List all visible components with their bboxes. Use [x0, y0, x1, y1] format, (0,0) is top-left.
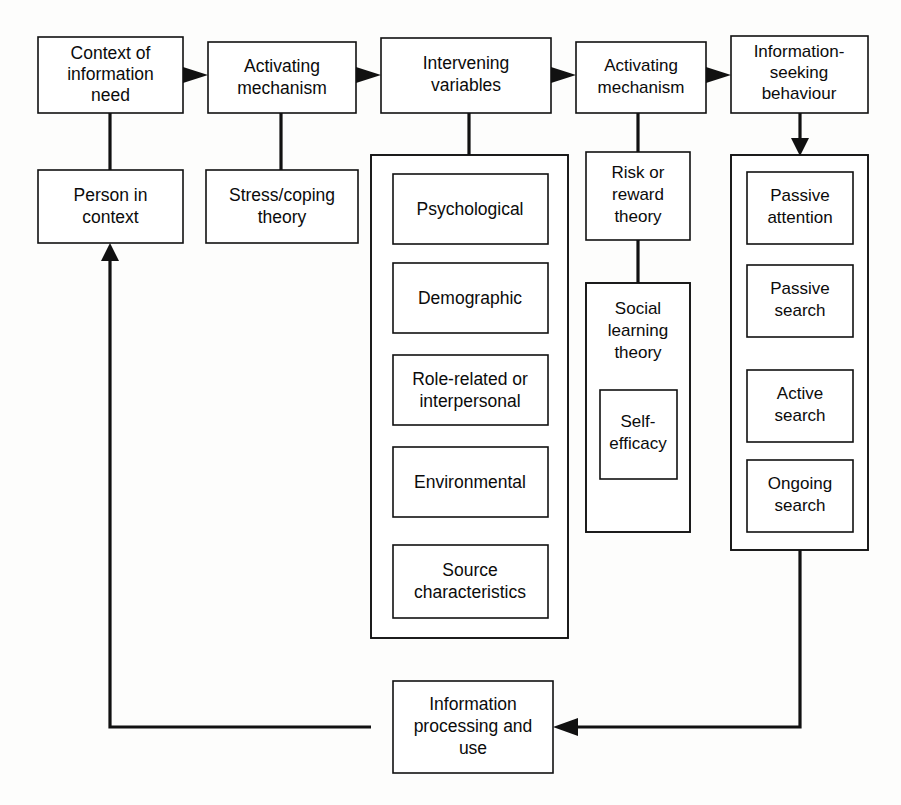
connector-seeking-to-processing	[575, 550, 800, 727]
box-label-activating1-line1: Activating	[244, 56, 320, 76]
box-label-psychological: Psychological	[417, 199, 524, 219]
arrowhead-activating2-to-seeking	[706, 67, 731, 83]
box-label-ongoing-search-line1: Ongoing	[768, 474, 832, 493]
arrowhead-seeking-to-container	[791, 138, 809, 156]
box-label-social-line2: learning	[608, 321, 669, 340]
connector-feedback-left	[101, 243, 371, 727]
box-label-self-efficacy-line2: efficacy	[609, 434, 667, 453]
box-label-risk-line3: theory	[614, 207, 662, 226]
box-label-demographic: Demographic	[418, 288, 522, 308]
box-label-ongoing-search-line2: search	[774, 496, 825, 515]
box-label-seeking-line2: seeking	[770, 63, 829, 82]
box-environmental[interactable]: Environmental	[393, 447, 548, 517]
box-label-passive-search-line1: Passive	[770, 279, 830, 298]
box-label-activating2-line1: Activating	[604, 56, 678, 75]
box-ongoing-search[interactable]: Ongoing search	[747, 460, 853, 532]
box-label-seeking-line1: Information-	[754, 42, 845, 61]
box-label-stress-line1: Stress/coping	[229, 185, 335, 205]
box-activating-mechanism-1[interactable]: Activating mechanism	[208, 42, 356, 113]
box-stress-coping-theory[interactable]: Stress/coping theory	[206, 170, 358, 243]
box-label-active-search-line2: search	[774, 406, 825, 425]
arrowhead-activating1-to-intervening	[356, 67, 381, 83]
box-label-active-search-line1: Active	[777, 384, 823, 403]
box-psychological[interactable]: Psychological	[393, 174, 548, 244]
box-label-activating2-line2: mechanism	[598, 78, 685, 97]
arrowhead-context-to-activating1	[183, 67, 208, 83]
arrowhead-into-processing	[553, 718, 578, 736]
box-label-intervening-line1: Intervening	[423, 53, 510, 73]
box-label-role-related-line2: interpersonal	[419, 391, 520, 411]
box-label-source-line1: Source	[442, 560, 497, 580]
box-person-in-context[interactable]: Person in context	[38, 170, 183, 243]
box-role-related-or-interpersonal[interactable]: Role-related or interpersonal	[393, 355, 548, 425]
box-label-risk-line2: reward	[612, 185, 664, 204]
box-passive-search[interactable]: Passive search	[747, 265, 853, 337]
box-context-of-information-need[interactable]: Context of information need	[38, 37, 183, 113]
box-demographic[interactable]: Demographic	[393, 263, 548, 333]
arrowhead-intervening-to-activating2	[551, 67, 576, 83]
box-label-processing-line2: processing and	[414, 716, 533, 736]
box-activating-mechanism-2[interactable]: Activating mechanism	[576, 42, 706, 113]
container-intervening-variables: Psychological Demographic Role-related o…	[371, 155, 568, 638]
box-label-context-line3: need	[91, 85, 130, 105]
box-risk-or-reward-theory[interactable]: Risk or reward theory	[586, 152, 690, 240]
box-label-intervening-line2: variables	[431, 75, 501, 95]
box-information-processing-and-use[interactable]: Information processing and use	[393, 681, 553, 773]
box-label-context-line2: information	[67, 64, 154, 84]
box-label-processing-line1: Information	[429, 694, 517, 714]
box-label-person-line1: Person in	[74, 185, 148, 205]
box-label-social-line1: Social	[615, 299, 661, 318]
box-information-seeking-behaviour[interactable]: Information- seeking behaviour	[731, 36, 868, 113]
box-passive-attention[interactable]: Passive attention	[747, 172, 853, 244]
container-social-learning-theory[interactable]: Social learning theory Self- efficacy	[586, 283, 690, 532]
box-intervening-variables[interactable]: Intervening variables	[381, 38, 551, 113]
box-label-self-efficacy-line1: Self-	[621, 412, 656, 431]
box-label-social-line3: theory	[614, 343, 662, 362]
box-label-risk-line1: Risk or	[612, 163, 665, 182]
flow-diagram-canvas: Context of information need Activating m…	[0, 0, 901, 805]
box-label-person-line2: context	[82, 207, 139, 227]
connector-feedback-right	[553, 550, 800, 736]
box-self-efficacy[interactable]: Self- efficacy	[600, 390, 677, 479]
box-active-search[interactable]: Active search	[747, 370, 853, 442]
box-label-environmental: Environmental	[414, 472, 526, 492]
container-information-seeking-behaviour: Passive attention Passive search Active …	[731, 155, 868, 550]
connector-processing-to-person	[110, 258, 371, 727]
box-label-passive-attention-line1: Passive	[770, 186, 830, 205]
arrowhead-into-person	[101, 243, 119, 261]
box-label-stress-line2: theory	[258, 207, 307, 227]
flow-diagram: Context of information need Activating m…	[0, 0, 901, 805]
box-label-passive-attention-line2: attention	[767, 208, 832, 227]
box-label-activating1-line2: mechanism	[237, 78, 326, 98]
box-label-source-line2: characteristics	[414, 582, 526, 602]
box-label-context-line1: Context of	[71, 43, 151, 63]
box-label-passive-search-line2: search	[774, 301, 825, 320]
box-label-role-related-line1: Role-related or	[412, 369, 528, 389]
box-label-processing-line3: use	[459, 738, 487, 758]
box-label-seeking-line3: behaviour	[762, 84, 837, 103]
box-source-characteristics[interactable]: Source characteristics	[393, 545, 548, 618]
